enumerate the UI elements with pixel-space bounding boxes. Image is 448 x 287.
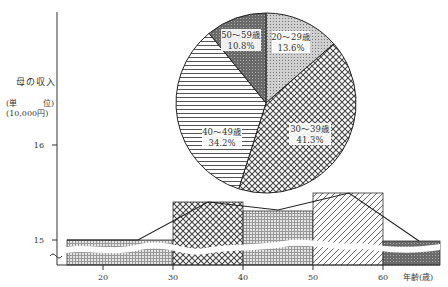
unit-paren-left: (単 bbox=[6, 99, 17, 109]
unit-paren-right: 位) bbox=[43, 99, 54, 109]
x-axis-label: 年齢(歳) bbox=[403, 272, 433, 282]
y-axis-unit: (単 位) (10,000円) bbox=[6, 99, 54, 119]
svg-text:13.6%: 13.6% bbox=[277, 43, 304, 53]
x-tick-label-60: 60 bbox=[378, 273, 388, 282]
axis-break-icon bbox=[50, 254, 62, 258]
pie-label-30-39: 30～39歳 41.3% bbox=[289, 123, 331, 145]
svg-text:34.2%: 34.2% bbox=[208, 138, 235, 148]
pie-label-20-29: 20～29歳 13.6% bbox=[271, 31, 311, 53]
svg-text:30～39歳: 30～39歳 bbox=[290, 124, 330, 134]
svg-text:20～29歳: 20～29歳 bbox=[271, 32, 311, 42]
x-tick-label-30: 30 bbox=[168, 273, 178, 282]
bar-60-plus bbox=[383, 241, 440, 265]
svg-text:40～49歳: 40～49歳 bbox=[202, 127, 242, 137]
bar-30-39 bbox=[173, 202, 243, 265]
pie-label-50-59: 50～59歳 10.8% bbox=[221, 29, 261, 51]
y-tick-label-16: 16 bbox=[34, 141, 44, 150]
y-tick-label-15: 15 bbox=[34, 236, 44, 245]
pie-chart bbox=[176, 13, 356, 193]
bar-group bbox=[67, 193, 440, 265]
bar-40-49 bbox=[243, 211, 313, 265]
chart-canvas: 16 15 20 30 40 50 60 年齢(歳) 20～29歳 13.6% … bbox=[0, 0, 448, 287]
svg-text:10.8%: 10.8% bbox=[227, 41, 254, 51]
pie-label-40-49: 40～49歳 34.2% bbox=[202, 126, 242, 148]
x-tick-label-50: 50 bbox=[308, 273, 318, 282]
x-ticks bbox=[103, 265, 383, 270]
svg-text:41.3%: 41.3% bbox=[296, 135, 323, 145]
bar-50-59 bbox=[313, 193, 383, 265]
x-tick-label-40: 40 bbox=[238, 273, 248, 282]
svg-text:50～59歳: 50～59歳 bbox=[221, 30, 261, 40]
unit-value: (10,000円) bbox=[6, 109, 54, 119]
x-tick-label-20: 20 bbox=[98, 273, 108, 282]
y-axis-title: 母の収入 bbox=[16, 75, 56, 88]
